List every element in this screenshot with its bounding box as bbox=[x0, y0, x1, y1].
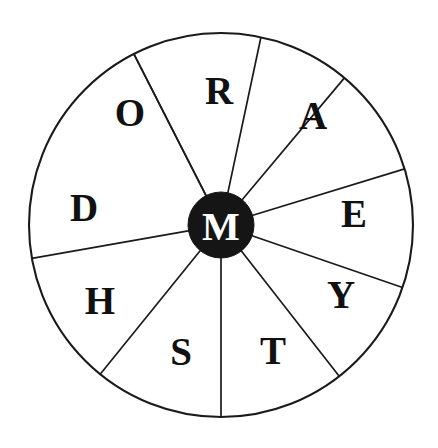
wheel-center-letter[interactable]: M bbox=[202, 204, 240, 249]
wheel-letter-r[interactable]: R bbox=[205, 69, 234, 112]
wheel-letter-h[interactable]: H bbox=[85, 279, 115, 322]
wheel-letter-e[interactable]: E bbox=[341, 192, 367, 235]
wheel-letter-y[interactable]: Y bbox=[327, 273, 355, 316]
wheel-letter-d[interactable]: D bbox=[70, 186, 98, 229]
wheel-letter-o[interactable]: O bbox=[115, 91, 145, 134]
word-wheel-graphic: ORAEYTSHDM bbox=[0, 0, 438, 448]
word-wheel-puzzle: ORAEYTSHDM bbox=[0, 0, 438, 448]
wheel-letter-a[interactable]: A bbox=[299, 94, 327, 137]
wheel-letter-s[interactable]: S bbox=[170, 330, 192, 373]
wheel-letter-t[interactable]: T bbox=[260, 329, 286, 372]
